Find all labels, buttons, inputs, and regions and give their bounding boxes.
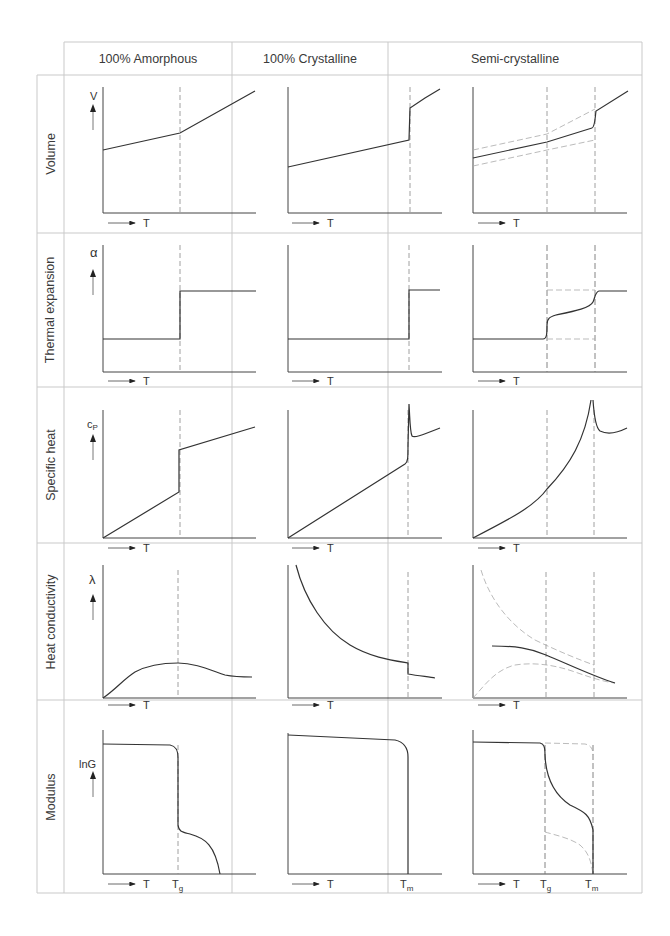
curve [473,291,627,339]
svg-text:T: T [327,375,334,387]
panel-modulus-semicrystalline: T Tg Tm [473,730,627,893]
up-arrow-icon [90,104,96,112]
panel-modulus-amorphous: lnG T Tg [79,730,256,893]
curve [473,91,628,158]
svg-text:T: T [143,217,150,229]
property-comparison-figure: 100% Amorphous 100% Crystalline Semi-cry… [0,0,670,936]
svg-text:T: T [143,878,150,890]
curve [288,735,408,874]
curve [473,742,593,874]
panel-thermal-expansion-semicrystalline: T [473,245,627,387]
svg-text:T: T [143,375,150,387]
svg-text:λ: λ [89,572,96,587]
svg-text:lnG: lnG [79,758,96,770]
tm-label: Tm [400,878,414,893]
svg-text:α: α [90,245,98,260]
svg-text:T: T [513,878,520,890]
svg-text:T: T [327,217,334,229]
svg-text:T: T [513,542,520,554]
y-symbol-v: V [90,90,98,102]
curve [288,89,440,167]
svg-text:T: T [327,542,334,554]
curve [593,400,627,433]
curve [288,290,440,339]
panel-heat-conductivity-semicrystalline [473,565,627,705]
panel-volume-crystalline: T [288,87,442,229]
tg-label: Tg [540,878,551,893]
svg-text:T: T [143,542,150,554]
svg-text:T: T [513,699,520,711]
panel-specific-heat-crystalline [288,404,442,548]
curve [296,565,435,678]
curve [103,291,256,339]
svg-text:T: T [327,878,334,890]
curve [103,744,220,874]
panel-specific-heat-semicrystalline [473,400,627,548]
panel-modulus-crystalline: T Tm [288,733,442,893]
svg-text:T: T [513,217,520,229]
curve [103,663,252,698]
panel-specific-heat-amorphous: cP [87,410,256,548]
table-grid [37,42,642,893]
tg-label: Tg [172,878,183,893]
up-arrow-icon [90,771,96,779]
panel-heat-conductivity-crystalline [288,565,442,705]
svg-text:T: T [513,375,520,387]
up-arrow-icon [90,434,96,442]
panel-thermal-expansion-crystalline: T [288,245,442,387]
up-arrow-icon [90,594,96,602]
y-symbol-cp: cP [87,418,98,432]
panel-heat-conductivity-amorphous: λ [89,565,256,705]
svg-text:T: T [327,699,334,711]
curve [288,404,440,538]
figure-graphics: V T T T [0,0,670,936]
panel-volume-semicrystalline: T [473,87,628,229]
curve [492,646,615,683]
up-arrow-icon [90,269,96,277]
svg-text:T: T [143,699,150,711]
panel-thermal-expansion-amorphous: α T [90,245,256,387]
panel-volume-amorphous: V T [90,87,256,229]
tm-label: Tm [585,878,599,893]
